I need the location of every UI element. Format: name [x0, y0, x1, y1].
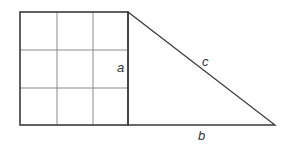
- square-outline: [20, 12, 128, 125]
- diagram-canvas: a c b: [0, 0, 289, 147]
- label-b: b: [198, 128, 205, 143]
- label-c: c: [202, 54, 209, 69]
- grid-lines: [20, 12, 128, 125]
- label-a: a: [117, 60, 124, 75]
